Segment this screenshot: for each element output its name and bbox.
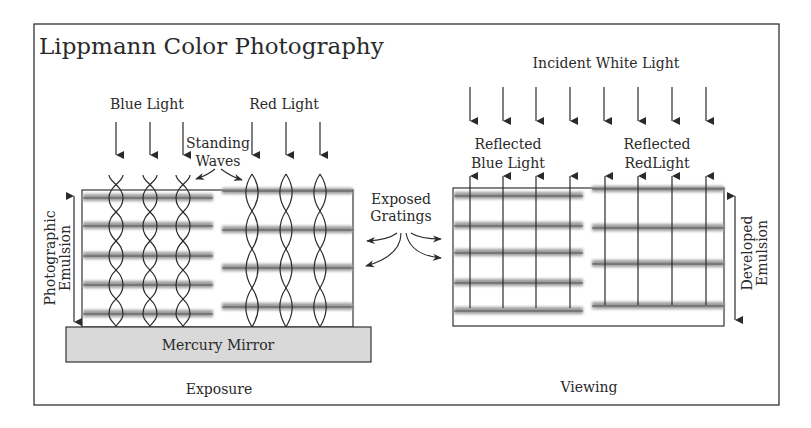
viewing-caption: Viewing [559,379,617,395]
exposed-gratings-label-1: Exposed [371,191,431,207]
developed-emulsion-label-2: Emulsion [754,220,770,286]
exposure-caption: Exposure [186,381,253,397]
reflected-blue-label-2: Blue Light [471,155,545,171]
developed-emulsion-label-1: Developed [739,216,755,291]
reflected-red-label-2: RedLight [624,155,690,171]
red-light-label: Red Light [249,96,319,112]
emulsion-label-2: Emulsion [57,225,73,291]
emulsion-label-1: Photographic [42,210,58,305]
exposed-gratings-label-2: Gratings [370,208,432,224]
mercury-mirror-label: Mercury Mirror [162,337,275,353]
reflected-red-label-1: Reflected [623,136,690,152]
blue-light-label: Blue Light [110,96,184,112]
figure-title: Lippmann Color Photography [39,33,384,59]
incident-white-light-label: Incident White Light [533,55,680,71]
lippmann-diagram: Lippmann Color Photography Blue Light Re… [0,0,811,428]
standing-waves-label-2: Waves [196,153,241,169]
standing-waves-label-1: Standing [186,135,250,151]
reflected-blue-label-1: Reflected [474,136,541,152]
